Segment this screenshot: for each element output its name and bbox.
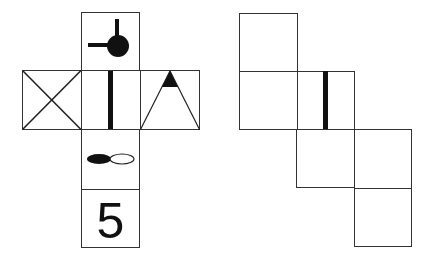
cube-net-figure: 5 [0, 0, 430, 266]
vertical-bar-icon [323, 71, 328, 129]
right-net-symbols [0, 0, 430, 266]
